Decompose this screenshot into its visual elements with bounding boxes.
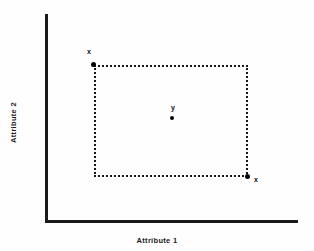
y-axis-line: [45, 14, 48, 223]
data-point-label-y-center: y: [171, 104, 175, 111]
x-axis-title: Attribute 1: [0, 236, 314, 245]
y-axis-title: Attribute 2: [9, 93, 18, 153]
data-point-label-x-bottom-right: x: [254, 176, 258, 183]
attribute-space-diagram: x y x Attribute 2 Attribute 1: [0, 0, 314, 251]
bounding-rectangle: [94, 65, 248, 177]
x-axis-line: [45, 220, 298, 223]
data-point-x-bottom-right: [245, 174, 250, 179]
data-point-y-center: [170, 116, 174, 120]
data-point-x-top-left: [91, 62, 96, 67]
data-point-label-x-top-left: x: [87, 48, 91, 55]
